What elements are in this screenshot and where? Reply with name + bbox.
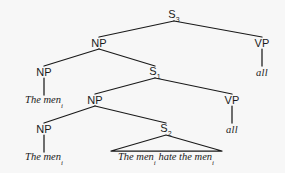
tree-branch-np_top-to-s1 xyxy=(99,49,155,66)
node-np-top: NP xyxy=(91,37,107,49)
node-vp-mid: VP xyxy=(224,94,239,106)
node-np-left-2: NP xyxy=(36,123,52,135)
clause-subject: The men xyxy=(118,151,154,162)
terminal-all-mid: all xyxy=(226,124,238,135)
terminal-the-men-lower: The meni xyxy=(25,151,63,165)
node-np-left-1: NP xyxy=(36,66,52,78)
tree-branch-s1-to-vp_mid xyxy=(155,78,232,94)
tree-branch-np_top-to-np_left_1 xyxy=(44,49,99,66)
syntactic-tree-diagram: S3 NP VP NP S1 NP VP NP S2 all The meni … xyxy=(0,0,285,173)
triangle-layer xyxy=(111,135,222,151)
terminal-all-top: all xyxy=(256,67,268,78)
clause-predicate: hate the men xyxy=(156,151,212,162)
tree-branch-s3-to-vp_top xyxy=(174,21,262,37)
node-vp-top: VP xyxy=(254,37,269,49)
terminal-the-men-upper: The meni xyxy=(25,94,63,108)
tree-branches-svg xyxy=(0,0,285,173)
tree-branch-s3-to-np_top xyxy=(99,21,174,37)
coindex-subscript: i xyxy=(212,159,214,167)
summary-triangle xyxy=(111,135,222,151)
coindex-subscript: i xyxy=(154,159,156,167)
node-np-mid: NP xyxy=(87,94,103,106)
node-s1: S1 xyxy=(149,65,161,79)
terminal-clause: The meni hate the meni xyxy=(118,151,214,165)
tree-branch-s1-to-np_mid xyxy=(95,78,155,94)
node-s2: S2 xyxy=(160,122,172,136)
tree-branch-np_mid-to-s2 xyxy=(95,106,166,123)
tree-branch-np_mid-to-np_left_2 xyxy=(44,106,95,123)
node-subscript: 2 xyxy=(168,130,172,137)
node-s3: S3 xyxy=(168,8,180,22)
node-subscript: 1 xyxy=(157,73,161,80)
node-subscript: 3 xyxy=(176,16,180,23)
coindex-subscript: i xyxy=(61,102,63,110)
coindex-subscript: i xyxy=(61,159,63,167)
